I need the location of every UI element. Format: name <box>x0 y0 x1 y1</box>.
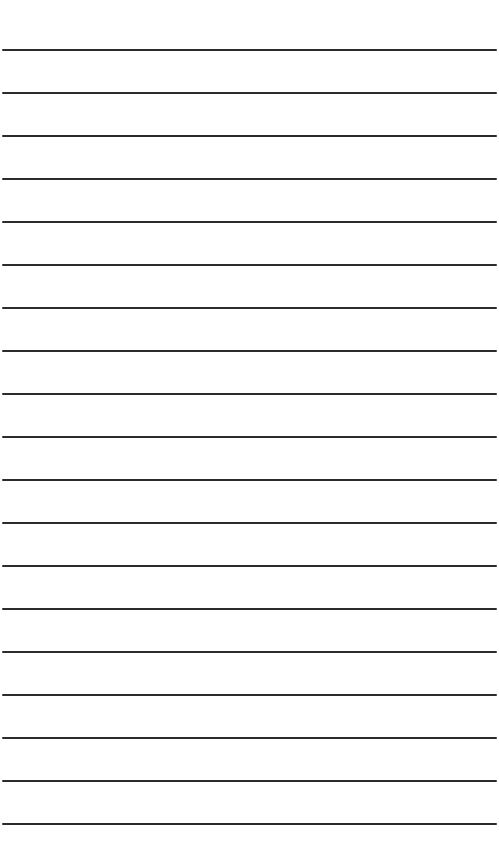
ruled-line <box>2 350 497 352</box>
ruled-line <box>2 608 497 610</box>
ruled-line <box>2 479 497 481</box>
ruled-line <box>2 307 497 309</box>
ruled-line <box>2 737 497 739</box>
ruled-line <box>2 135 497 137</box>
ruled-line <box>2 264 497 266</box>
ruled-line <box>2 178 497 180</box>
ruled-line <box>2 92 497 94</box>
ruled-line <box>2 694 497 696</box>
ruled-line <box>2 436 497 438</box>
ruled-line <box>2 522 497 524</box>
ruled-line <box>2 565 497 567</box>
ruled-line <box>2 780 497 782</box>
ruled-line <box>2 221 497 223</box>
lined-paper <box>0 0 499 867</box>
ruled-line <box>2 823 497 825</box>
ruled-line <box>2 651 497 653</box>
ruled-line <box>2 393 497 395</box>
ruled-line <box>2 49 497 51</box>
